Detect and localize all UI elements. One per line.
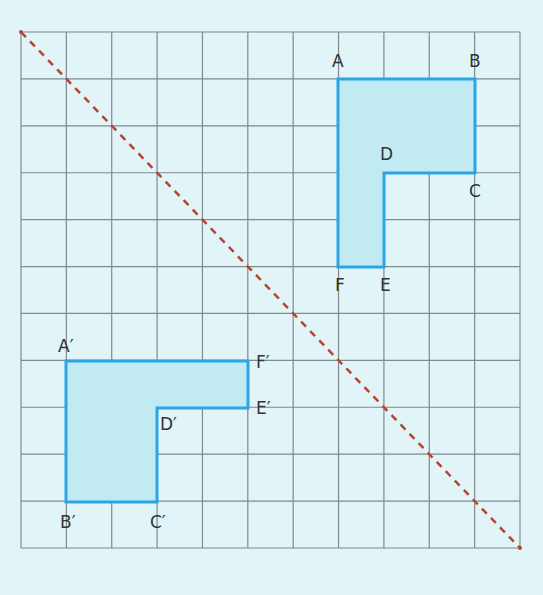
mirror-line-end-dot: [518, 546, 522, 550]
label-e-prime: E′: [256, 398, 271, 418]
label-e: E: [380, 275, 391, 295]
label-d: D: [380, 144, 393, 164]
reflection-diagram: A B C D E F A′ B′ C′ D′ E′ F′: [0, 0, 543, 595]
label-f: F: [335, 275, 345, 295]
label-c: C: [469, 181, 481, 201]
label-c-prime: C′: [150, 512, 166, 532]
label-a-prime: A′: [58, 336, 74, 356]
label-b: B: [469, 51, 481, 71]
mirror-line-start-dot: [19, 30, 23, 34]
label-f-prime: F′: [256, 352, 270, 372]
label-b-prime: B′: [60, 512, 76, 532]
label-a: A: [332, 51, 344, 71]
label-d-prime: D′: [160, 414, 177, 434]
shape-abcdef-prime: [66, 361, 248, 502]
shape-abcdef: [338, 79, 475, 267]
